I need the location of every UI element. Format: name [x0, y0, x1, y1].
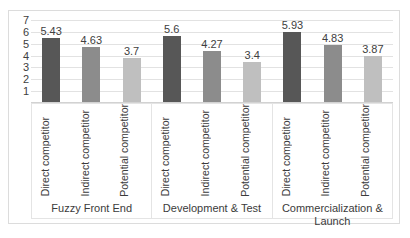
bar-value-label: 4.27 [192, 38, 232, 50]
series-label-row: Direct competitorIndirect competitorPote… [32, 104, 151, 199]
category-group: Direct competitorIndirect competitorPote… [152, 104, 272, 218]
y-axis-tick-label: 7 [23, 15, 29, 26]
y-axis-tick-label: 4 [23, 51, 29, 62]
series-label: Indirect competitor [319, 110, 345, 196]
bar-value-label: 5.6 [152, 23, 192, 35]
category-label: Fuzzy Front End [32, 199, 151, 233]
series-label: Indirect competitor [199, 110, 225, 196]
bar-value-label: 5.43 [31, 25, 71, 37]
bar-value-label: 3.87 [353, 43, 393, 55]
bar [243, 62, 261, 102]
bar [82, 47, 100, 102]
bar [42, 38, 60, 102]
y-axis-tick-label: 2 [23, 74, 29, 85]
category-label-panel: Direct competitorIndirect competitorPote… [31, 103, 393, 219]
series-label: Potential competitor [118, 104, 144, 197]
series-label: Indirect competitor [79, 110, 105, 196]
series-label: Potential competitor [239, 104, 265, 197]
category-group: Direct competitorIndirect competitorPote… [32, 104, 152, 218]
bar [364, 56, 382, 102]
category-label: Commercialization & Launch [273, 199, 392, 233]
bar [283, 32, 301, 102]
series-label: Direct competitor [159, 117, 185, 196]
category-group: Direct competitorIndirect competitorPote… [273, 104, 392, 218]
bar-value-label: 4.83 [313, 32, 353, 44]
bar [324, 45, 342, 102]
bar [203, 51, 221, 102]
series-label-row: Direct competitorIndirect competitorPote… [273, 104, 392, 199]
y-axis-tick-label: 3 [23, 62, 29, 73]
bar [123, 58, 141, 102]
y-axis-tick-label: 1 [23, 86, 29, 97]
bar [163, 36, 181, 102]
series-label: Potential competitor [359, 104, 385, 197]
gridline [31, 20, 393, 21]
plot-area: 5.434.633.75.64.273.45.934.833.87 [31, 20, 393, 103]
category-label: Development & Test [152, 199, 271, 233]
bar-value-label: 3.7 [112, 45, 152, 57]
series-label-row: Direct competitorIndirect competitorPote… [152, 104, 271, 199]
y-axis-tick-label: 5 [23, 39, 29, 50]
bar-value-label: 4.63 [71, 34, 111, 46]
series-label: Direct competitor [39, 117, 65, 196]
y-axis: 7654321 [9, 11, 31, 95]
series-label: Direct competitor [280, 117, 306, 196]
bar-chart: 7654321 5.434.633.75.64.273.45.934.833.8… [8, 10, 400, 224]
bar-value-label: 3.4 [232, 49, 272, 61]
y-axis-tick-label: 6 [23, 27, 29, 38]
bar-value-label: 5.93 [272, 19, 312, 31]
